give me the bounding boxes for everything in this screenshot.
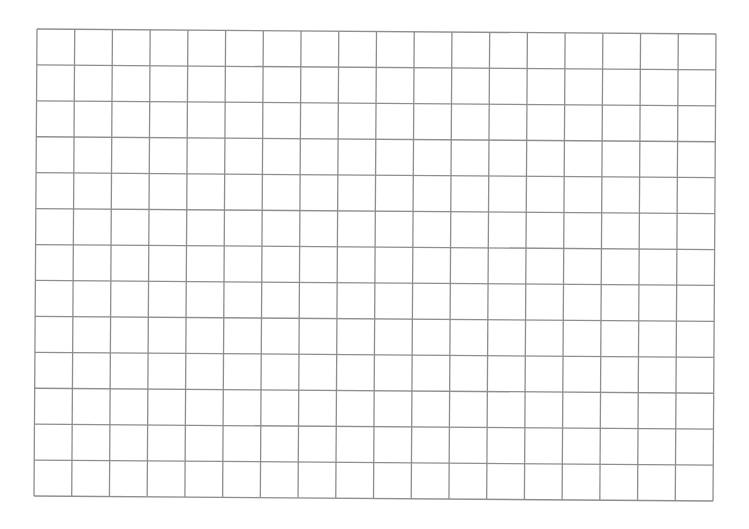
grid-column-line — [487, 32, 490, 499]
grid-column-line — [223, 30, 226, 497]
grid-column-line — [260, 31, 263, 498]
grid-column-line — [524, 33, 527, 500]
grid-column-line — [562, 33, 565, 500]
grid-column-line — [109, 30, 112, 497]
grid-column-line — [374, 32, 377, 499]
grid-column-line — [411, 32, 414, 499]
grid-border-vertical — [34, 29, 37, 496]
grid-column-line — [72, 29, 75, 496]
grid-border-vertical — [713, 34, 716, 501]
grid-column-line — [638, 33, 641, 500]
grid-paper — [0, 0, 749, 529]
grid-column-line — [336, 31, 339, 498]
grid-column-line — [675, 34, 678, 501]
grid-column-line — [185, 30, 188, 497]
grid-column-line — [449, 32, 452, 499]
grid-column-line — [298, 31, 301, 498]
grid-column-line — [147, 30, 150, 497]
grid-lines — [34, 29, 716, 501]
grid-column-line — [600, 33, 603, 500]
